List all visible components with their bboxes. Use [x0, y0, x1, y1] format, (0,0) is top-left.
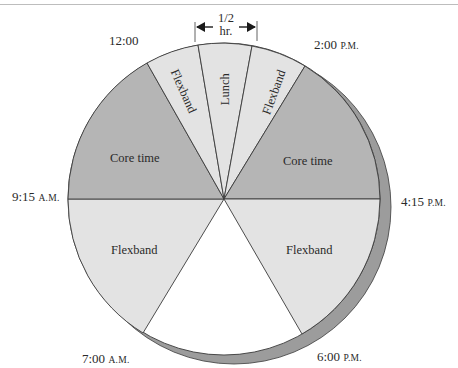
half-hour-line2: hr. [211, 25, 241, 38]
segment-label-lunch: Lunch [219, 73, 232, 105]
time-label-6-00-pm: 6:00 P.M. [317, 350, 362, 364]
segment-label-flexband-morning: Flexband [111, 244, 158, 257]
time-label-12-00: 12:00 [109, 34, 139, 47]
half-hour-label: 1/2 hr. [211, 12, 241, 38]
arrow-right-icon [247, 22, 256, 32]
time-label-2-00-pm: 2:00 P.M. [314, 38, 359, 52]
segment-label-core-time-afternoon: Core time [283, 155, 333, 168]
time-label-4-15-pm: 4:15 P.M. [401, 195, 446, 209]
segment-label-flexband-evening: Flexband [286, 244, 333, 257]
segment-label-core-time-morning: Core time [110, 152, 160, 165]
flextime-pie-chart [0, 0, 458, 368]
time-label-9-15-am: 9:15 A.M. [12, 190, 60, 204]
arrow-left-icon [196, 22, 205, 32]
time-label-7-00-am: 7:00 A.M. [82, 352, 130, 366]
